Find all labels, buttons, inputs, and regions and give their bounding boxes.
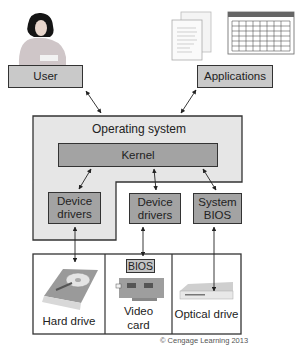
kernel-label: Kernel: [121, 149, 154, 162]
module-label-line1: Device: [57, 195, 92, 208]
video-card-label-line1: Video: [105, 304, 172, 318]
person-at-desk-icon: [19, 13, 66, 66]
device-drivers-box-1: Device drivers: [48, 192, 101, 224]
kernel-box: Kernel: [58, 143, 218, 167]
user-label: User: [33, 70, 57, 83]
module-label-line1: System: [198, 196, 236, 209]
module-label-line2: drivers: [138, 209, 173, 222]
copyright-text: © Cengage Learning 2013: [160, 336, 248, 345]
module-label-line1: Device: [137, 196, 172, 209]
hard-drive-label: Hard drive: [33, 314, 105, 328]
bios-chip: BIOS: [126, 259, 155, 273]
os-label: Operating system: [92, 122, 186, 136]
bios-chip-label: BIOS: [128, 260, 153, 273]
system-bios-box: System BIOS: [193, 193, 242, 224]
device-drivers-box-2: Device drivers: [129, 193, 181, 224]
module-label-line2: BIOS: [204, 209, 231, 222]
applications-box: Applications: [197, 65, 273, 88]
video-card-label-line2: card: [105, 318, 172, 332]
optical-drive-icon: [180, 282, 233, 299]
spreadsheet-icon: [228, 12, 294, 54]
user-box: User: [8, 65, 83, 88]
video-card-icon: [116, 278, 164, 301]
video-card-label: Video card: [105, 304, 172, 332]
diagram-canvas: [0, 0, 298, 352]
module-label-line2: drivers: [57, 208, 92, 221]
optical-drive-label: Optical drive: [172, 307, 241, 321]
applications-label: Applications: [204, 70, 266, 83]
document-icon: [172, 12, 211, 60]
